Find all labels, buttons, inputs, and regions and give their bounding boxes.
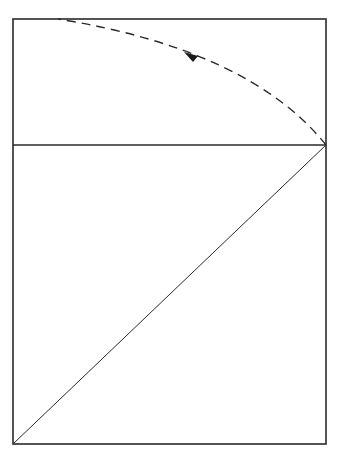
diagram-canvas [0, 0, 337, 460]
diagonal-line [13, 145, 326, 444]
outer-rectangle [13, 19, 326, 444]
dashed-arc [58, 19, 326, 145]
